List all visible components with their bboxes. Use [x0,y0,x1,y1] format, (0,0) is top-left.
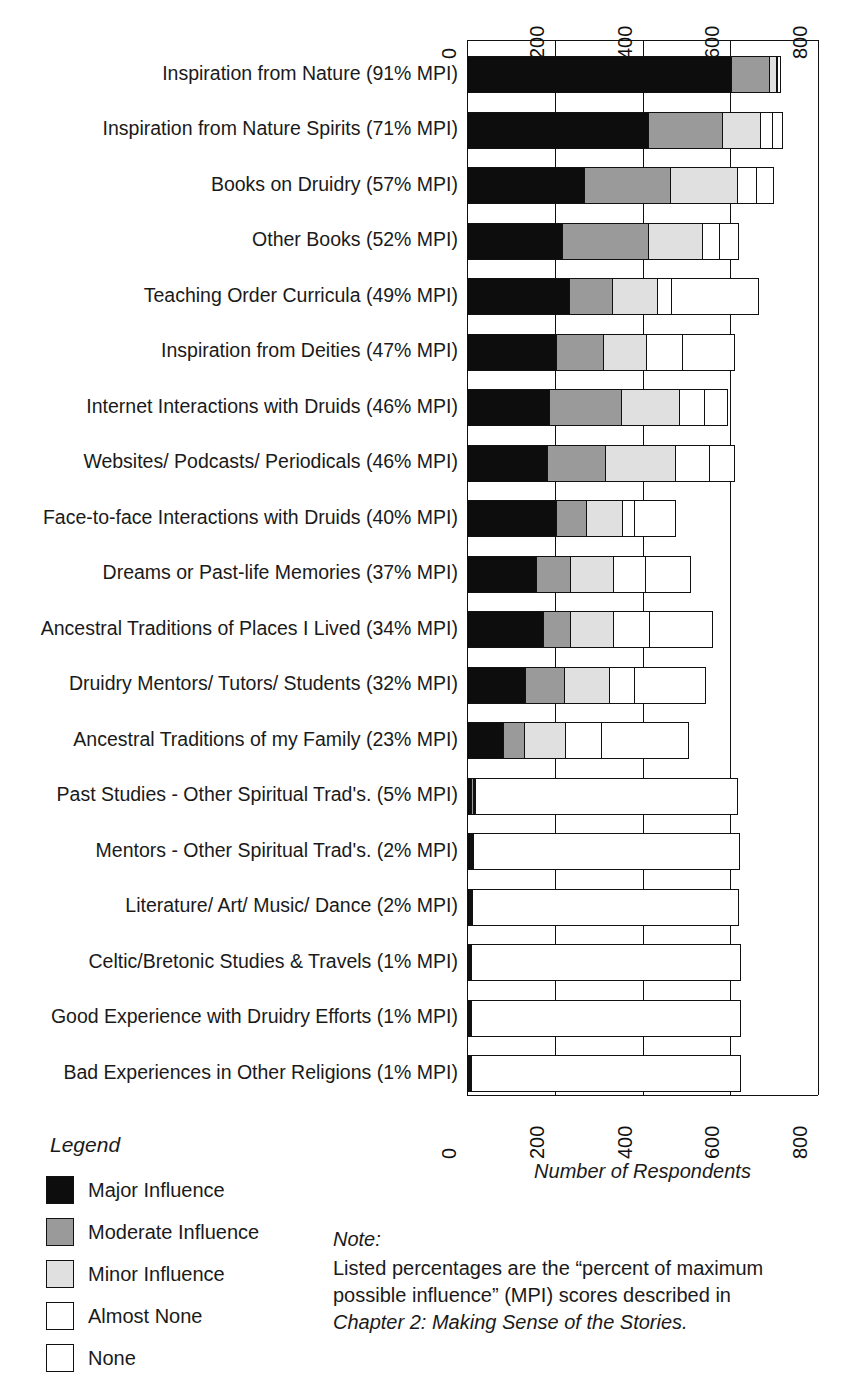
category-label: Good Experience with Druidry Efforts (1%… [0,1005,458,1028]
bar-segment-minor-influence [605,445,675,482]
bar-segment-moderate-influence [562,223,650,260]
bar-segment-major-influence [467,167,585,204]
bar-row [467,1055,740,1092]
note-block: Note: Listed percentages are the “percen… [333,1228,848,1336]
bar-row [467,167,773,204]
category-label: Websites/ Podcasts/ Periodicals (46% MPI… [0,450,458,473]
bar-segment-minor-influence [612,278,658,315]
plot-bottom-rule [467,1095,818,1096]
bar-row [467,278,758,315]
legend-items: Major InfluenceModerate InfluenceMinor I… [46,1169,346,1378]
bar-segment-almost-none [679,389,705,426]
bar-segment-moderate-influence [549,389,621,426]
bar-segment-major-influence [467,445,548,482]
bar-segment-almost-none [565,722,602,759]
bar-row [467,889,738,926]
bar-row [467,223,738,260]
legend-swatch-icon [46,1176,74,1204]
x-tick-label-200: 200 [526,1126,549,1159]
legend-swatch-icon [46,1218,74,1246]
bar-segment-none [682,334,735,371]
bar-segment-major-influence [467,56,732,93]
legend-title: Legend [46,1133,346,1157]
legend-swatch-icon [46,1344,74,1372]
bar-segment-none [475,778,738,815]
bar-segment-moderate-influence [556,500,587,537]
x-tick-label-800: 800 [789,1126,812,1159]
bar-row [467,556,690,593]
bar-row [467,944,740,981]
category-label: Other Books (52% MPI) [0,228,458,251]
legend-swatch-icon [46,1260,74,1288]
bar-segment-none [473,833,741,870]
bar-segment-moderate-influence [547,445,606,482]
bar-segment-major-influence [467,334,557,371]
note-line: possible influence” (MPI) scores describ… [333,1282,848,1309]
bar-segment-almost-none [609,667,635,704]
category-label: Inspiration from Nature (91% MPI) [0,62,458,85]
gridline-800 [818,40,819,1095]
bar-segment-major-influence [467,722,504,759]
bar-segment-minor-influence [621,389,680,426]
bar-segment-major-influence [467,389,550,426]
bar-segment-moderate-influence [525,667,564,704]
bar-row [467,334,734,371]
bar-segment-minor-influence [564,667,610,704]
category-label: Internet Interactions with Druids (46% M… [0,395,458,418]
bar-segment-none [719,223,739,260]
note-title: Note: [333,1228,848,1251]
legend-label: Major Influence [88,1179,225,1202]
plot-area [467,40,818,1095]
bar-row [467,389,727,426]
bar-segment-none [471,944,741,981]
bar-segment-major-influence [467,556,537,593]
note-line: Listed percentages are the “percent of m… [333,1255,848,1282]
category-label: Mentors - Other Spiritual Trad's. (2% MP… [0,839,458,862]
bar-segment-major-influence [467,500,557,537]
bar-row [467,445,734,482]
bar-segment-minor-influence [570,611,614,648]
category-label: Inspiration from Deities (47% MPI) [0,339,458,362]
bar-row [467,1000,740,1037]
category-label: Past Studies - Other Spiritual Trad's. (… [0,783,458,806]
bar-segment-moderate-influence [503,722,525,759]
bar-segment-none [472,889,740,926]
legend-label: Moderate Influence [88,1221,259,1244]
bar-segment-none [649,611,713,648]
bar-segment-none [634,667,706,704]
bar-segment-almost-none [613,611,650,648]
bar-segment-none [645,556,691,593]
category-label: Face-to-face Interactions with Druids (4… [0,506,458,529]
bar-row [467,778,737,815]
bar-segment-none [777,56,781,93]
category-label: Ancestral Traditions of Places I Lived (… [0,617,458,640]
category-label: Celtic/Bretonic Studies & Travels (1% MP… [0,950,458,973]
bar-segment-none [634,500,676,537]
category-label: Inspiration from Nature Spirits (71% MPI… [0,117,458,140]
legend-swatch-icon [46,1302,74,1330]
x-tick-label-0: 0 [438,1148,461,1159]
legend-item: Almost None [46,1295,346,1337]
bar-segment-minor-influence [586,500,623,537]
bar-segment-almost-none [613,556,646,593]
x-tick-label-600: 600 [701,1126,724,1159]
bar-segment-major-influence [467,278,570,315]
x-tick-label-400: 400 [614,1126,637,1159]
bar-segment-none [671,278,759,315]
bar-row [467,611,712,648]
legend-item: None [46,1337,346,1378]
legend-label: Minor Influence [88,1263,225,1286]
bar-segment-moderate-influence [648,112,723,149]
bar-row [467,722,688,759]
bar-segment-major-influence [467,667,526,704]
bar-segment-minor-influence [648,223,703,260]
category-label: Books on Druidry (57% MPI) [0,173,458,196]
legend-label: Almost None [88,1305,203,1328]
bar-segment-almost-none [657,278,672,315]
legend-label: None [88,1347,136,1370]
bar-segment-major-influence [467,112,649,149]
bar-row [467,112,782,149]
bar-segment-minor-influence [670,167,738,204]
legend: Legend Major InfluenceModerate Influence… [46,1133,346,1378]
category-label: Dreams or Past-life Memories (37% MPI) [0,561,458,584]
